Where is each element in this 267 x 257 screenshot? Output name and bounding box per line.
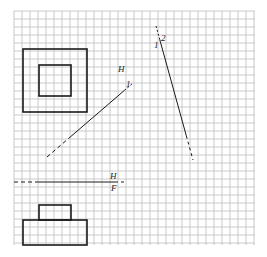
fold-label-1b: 1 (154, 40, 159, 50)
fold-line-12: 1 2 (154, 26, 193, 160)
fold-line-hf: H F (14, 171, 127, 193)
fold-label-h-aux: H (117, 64, 125, 74)
grid (14, 11, 255, 245)
fold-label-2: 2 (161, 33, 166, 43)
front-view-base-block (23, 220, 87, 245)
fold-line-h1-dash (47, 139, 69, 158)
fold-line-h1: H 1 (47, 64, 133, 157)
front-view-top-block (39, 205, 71, 220)
fold-label-h: H (109, 171, 117, 181)
fold-label-1: 1 (126, 79, 131, 89)
fold-label-f: F (110, 183, 117, 193)
top-view (23, 49, 87, 112)
top-view-outer-square (23, 49, 87, 112)
diagram-canvas: H F H 1 1 2 (0, 0, 267, 257)
